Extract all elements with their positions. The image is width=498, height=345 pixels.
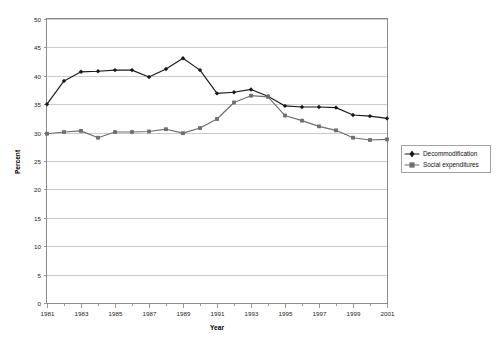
y-tick-label: 10 <box>34 243 41 250</box>
data-point-diamond <box>96 69 100 73</box>
data-point-square <box>283 114 287 118</box>
plot-area-border <box>47 19 388 304</box>
data-point-square <box>79 129 83 133</box>
x-axis-tick-marks <box>48 304 388 308</box>
data-point-square <box>215 117 219 121</box>
y-tick-label: 5 <box>38 272 42 279</box>
legend-label-decommodification: Decommodification <box>423 150 478 157</box>
data-point-square <box>45 132 49 136</box>
data-point-diamond <box>232 90 236 94</box>
y-tick-label: 35 <box>34 101 41 108</box>
gridlines <box>47 20 387 304</box>
y-tick-label: 15 <box>34 215 41 222</box>
y-tick-label: 20 <box>34 186 41 193</box>
x-tick-label: 1981 <box>41 310 55 317</box>
x-tick-label: 2001 <box>381 310 395 317</box>
data-point-square <box>113 130 117 134</box>
legend-label-social-expenditures: Social expenditures <box>423 161 479 169</box>
data-point-square <box>198 126 202 130</box>
data-point-square <box>368 138 372 142</box>
data-point-square <box>351 136 355 140</box>
x-tick-label: 1997 <box>313 310 327 317</box>
y-tick-label: 50 <box>34 16 41 23</box>
data-point-square <box>96 136 100 140</box>
y-tick-label: 25 <box>34 158 41 165</box>
x-tick-label: 1993 <box>245 310 259 317</box>
data-point-square <box>249 94 253 98</box>
square-icon <box>409 162 414 167</box>
data-point-diamond <box>385 116 389 120</box>
data-point-square <box>147 130 151 134</box>
x-tick-label: 1985 <box>109 310 123 317</box>
chart-container: 05101520253035404550 1981198319851987198… <box>0 0 498 345</box>
x-tick-label: 1991 <box>211 310 225 317</box>
data-point-diamond <box>317 105 321 109</box>
data-point-square <box>130 130 134 134</box>
data-point-diamond <box>300 105 304 109</box>
x-axis-title: Year <box>210 324 224 331</box>
data-point-square <box>232 101 236 105</box>
y-axis-title: Percent <box>14 149 21 174</box>
data-point-diamond <box>79 70 83 74</box>
x-tick-label: 1989 <box>177 310 191 317</box>
data-point-square <box>62 130 66 134</box>
data-point-diamond <box>130 68 134 72</box>
data-point-square <box>317 124 321 128</box>
data-point-diamond <box>147 75 151 79</box>
y-tick-label: 40 <box>34 73 41 80</box>
x-axis-tick-labels: 1981198319851987198919911993199519971999… <box>41 310 395 317</box>
data-point-square <box>300 119 304 123</box>
data-point-diamond <box>334 105 338 109</box>
data-point-square <box>334 128 338 132</box>
data-point-diamond <box>249 87 253 91</box>
series-social-expenditures <box>45 94 389 142</box>
series-decommodification <box>45 56 389 121</box>
data-point-diamond <box>351 113 355 117</box>
y-tick-label: 30 <box>34 130 41 137</box>
data-point-square <box>164 127 168 131</box>
data-point-diamond <box>368 114 372 118</box>
x-tick-label: 1987 <box>143 310 157 317</box>
y-axis-tick-labels: 05101520253035404550 <box>34 16 41 307</box>
data-point-diamond <box>113 68 117 72</box>
x-tick-label: 1999 <box>347 310 361 317</box>
y-tick-label: 0 <box>38 300 42 307</box>
x-tick-label: 1983 <box>75 310 89 317</box>
data-point-square <box>181 131 185 135</box>
data-point-square <box>385 138 389 142</box>
data-point-square <box>266 95 270 99</box>
y-tick-label: 45 <box>34 44 41 51</box>
legend: Decommodification Social expenditures <box>401 145 490 172</box>
line-chart: 05101520253035404550 1981198319851987198… <box>0 0 498 345</box>
x-tick-label: 1995 <box>279 310 293 317</box>
